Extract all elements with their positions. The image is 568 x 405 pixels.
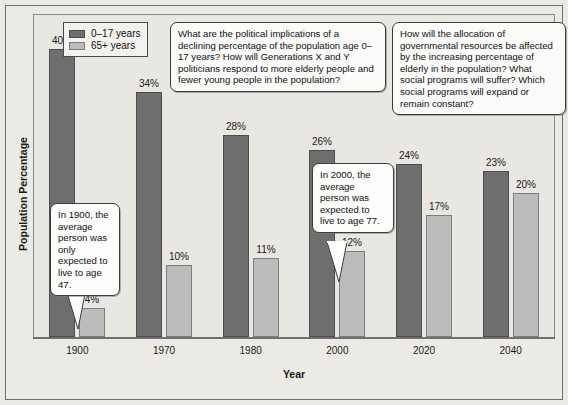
bar-value-label: 11%	[246, 244, 286, 255]
callout-2000-life-expectancy: In 2000, the average person was expected…	[312, 163, 394, 233]
x-tick-label-2000: 2000	[307, 345, 367, 356]
legend: 0–17 years 65+ years	[63, 22, 148, 57]
annotation-note-resource-allocation: How will the allocation of governmental …	[392, 22, 566, 115]
callout-tail-2000-icon	[322, 242, 366, 284]
bar-1970-0-17-years	[136, 92, 162, 337]
bar-value-label: 34%	[129, 78, 169, 89]
bar-2020-65-plus-years	[426, 215, 452, 337]
x-tick-label-1900: 1900	[47, 345, 107, 356]
bar-value-label: 10%	[159, 251, 199, 262]
bar-value-label: 24%	[389, 150, 429, 161]
x-axis-title: Year	[33, 368, 555, 380]
bar-1970-65-plus-years	[166, 265, 192, 337]
bar-value-label: 28%	[216, 121, 256, 132]
bar-value-label: 23%	[476, 157, 516, 168]
bar-2040-0-17-years	[483, 171, 509, 337]
bar-1980-0-17-years	[223, 135, 249, 337]
x-axis-line	[33, 337, 555, 339]
legend-label: 0–17 years	[91, 28, 140, 39]
x-tick-label-2020: 2020	[394, 345, 454, 356]
callout-1900-life-expectancy: In 1900, the average person was only exp…	[50, 203, 120, 296]
dark-gray-swatch-icon	[69, 30, 85, 38]
legend-label: 65+ years	[91, 40, 135, 51]
bar-value-label: 26%	[302, 136, 342, 147]
bar-2020-0-17-years	[396, 164, 422, 337]
light-gray-swatch-icon	[69, 42, 85, 50]
figure-canvas: Population Percentage Year 40%4%190034%1…	[0, 0, 568, 405]
y-axis-title: Population Percentage	[17, 109, 29, 279]
legend-item-65-plus-years: 65+ years	[69, 40, 140, 51]
x-tick-label-1970: 1970	[134, 345, 194, 356]
annotation-note-political-implications: What are the political implications of a…	[170, 22, 386, 92]
bar-value-label: 17%	[419, 201, 459, 212]
x-tick-label-2040: 2040	[481, 345, 541, 356]
bar-value-label: 20%	[506, 179, 546, 190]
legend-item-0-17-years: 0–17 years	[69, 28, 140, 39]
bar-1980-65-plus-years	[253, 258, 279, 337]
bar-2040-65-plus-years	[513, 193, 539, 337]
x-tick-label-1980: 1980	[221, 345, 281, 356]
